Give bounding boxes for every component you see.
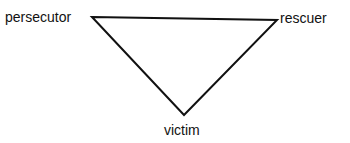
victim-label: victim [164, 122, 200, 138]
persecutor-label: persecutor [5, 9, 71, 25]
rescuer-label: rescuer [280, 10, 327, 26]
drama-triangle [92, 17, 277, 115]
